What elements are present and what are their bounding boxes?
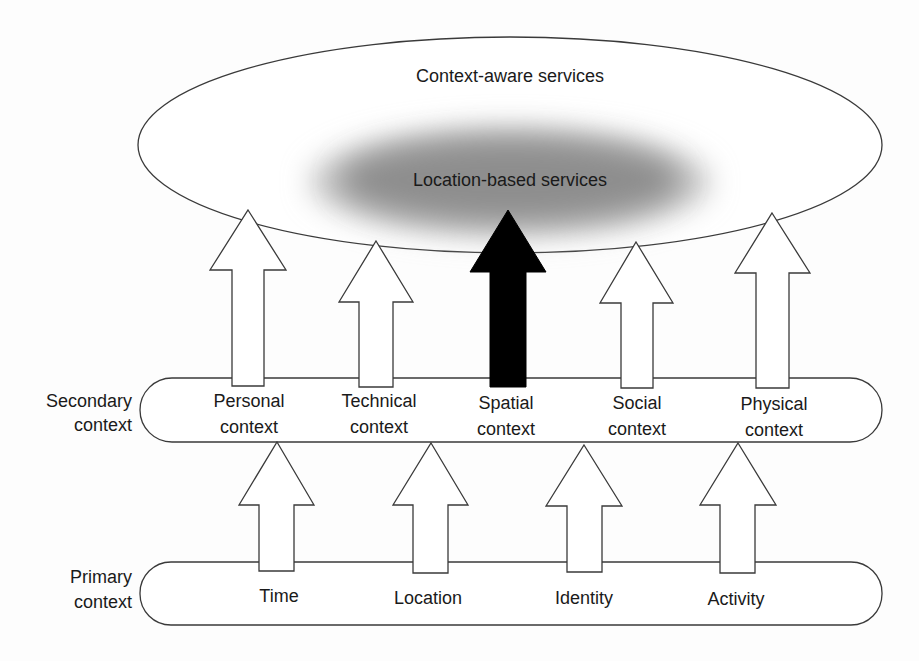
primary-context-label-line2: context: [74, 592, 132, 612]
social-context-label-line1: Social: [612, 393, 661, 413]
location-based-services-label: Location-based services: [413, 170, 607, 190]
context-aware-services-label: Context-aware services: [416, 66, 604, 86]
primary-context-label-line1: Primary: [70, 567, 132, 587]
arrow-up-icon: [735, 213, 810, 388]
technical-context-label-line2: context: [350, 417, 408, 437]
arrow-up-icon: [239, 442, 314, 571]
secondary-context-label-line1: Secondary: [46, 391, 132, 411]
activity-label: Activity: [707, 589, 764, 609]
technical-context-label-line1: Technical: [341, 391, 416, 411]
arrow-up-icon: [600, 242, 673, 388]
spatial-context-label-line2: context: [477, 419, 535, 439]
physical-context-label-line1: Physical: [740, 394, 807, 414]
spatial-context-label-line1: Spatial: [478, 393, 533, 413]
arrow-up-icon: [393, 443, 468, 573]
context-diagram: Context-aware services Location-based se…: [0, 0, 919, 661]
secondary-context-label-line2: context: [74, 415, 132, 435]
arrow-up-icon: [210, 210, 286, 386]
arrow-up-icon: [700, 443, 776, 573]
personal-context-label-line2: context: [220, 417, 278, 437]
primary-context-band: [140, 562, 882, 625]
arrow-up-icon: [339, 241, 413, 387]
social-context-label-line2: context: [608, 419, 666, 439]
location-label: Location: [394, 588, 462, 608]
arrow-up-icon: [546, 445, 622, 572]
time-label: Time: [259, 586, 298, 606]
physical-context-label-line2: context: [745, 420, 803, 440]
identity-label: Identity: [555, 588, 613, 608]
personal-context-label-line1: Personal: [213, 391, 284, 411]
